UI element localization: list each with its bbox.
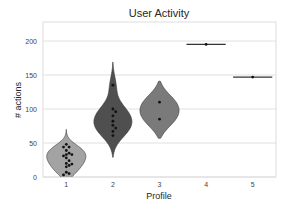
data-point (62, 155, 65, 158)
x-tick-label: 2 (111, 181, 115, 188)
chart: User Activity 050100150200 12345 Profile… (0, 0, 291, 210)
y-tick-label: 200 (25, 38, 37, 45)
data-point (65, 157, 68, 160)
y-tick-label: 100 (25, 106, 37, 113)
data-point (112, 84, 115, 87)
x-tick-label: 4 (204, 181, 208, 188)
violin-5 (233, 76, 272, 79)
data-point (251, 76, 254, 79)
data-point (68, 172, 71, 175)
data-point (205, 43, 208, 46)
violin-1 (47, 129, 86, 183)
violin-4 (187, 43, 226, 46)
x-tick-labels: 12345 (64, 181, 254, 188)
data-point (112, 120, 115, 123)
data-point (65, 143, 68, 146)
violins (47, 43, 273, 184)
data-point (65, 149, 68, 152)
data-point (65, 162, 68, 165)
data-point (112, 124, 115, 127)
y-tick-label: 50 (29, 140, 37, 147)
data-point (68, 152, 71, 155)
data-point (62, 146, 65, 149)
data-point (71, 153, 74, 156)
x-tick-label: 1 (64, 181, 68, 188)
y-tick-label: 150 (25, 72, 37, 79)
y-tick-labels: 050100150200 (25, 38, 37, 181)
data-point (158, 118, 161, 121)
data-point (65, 165, 68, 168)
data-point (62, 174, 65, 177)
data-point (114, 127, 117, 130)
data-point (112, 130, 115, 133)
x-tick-label: 5 (251, 181, 255, 188)
data-point (112, 114, 115, 117)
data-point (65, 153, 68, 156)
y-axis-label: # actions (13, 81, 23, 118)
data-point (68, 164, 71, 167)
x-axis-label: Profile (146, 191, 172, 201)
violin-3 (140, 81, 179, 138)
data-point (68, 159, 71, 162)
data-point (71, 163, 74, 166)
x-tick-label: 3 (158, 181, 162, 188)
data-point (65, 171, 68, 174)
data-point (112, 134, 115, 137)
data-point (158, 101, 161, 104)
chart-title: User Activity (129, 7, 190, 19)
violin-body (140, 81, 179, 138)
data-point (68, 146, 71, 149)
y-tick-label: 0 (33, 174, 37, 181)
data-point (114, 110, 117, 113)
data-point (112, 108, 115, 111)
